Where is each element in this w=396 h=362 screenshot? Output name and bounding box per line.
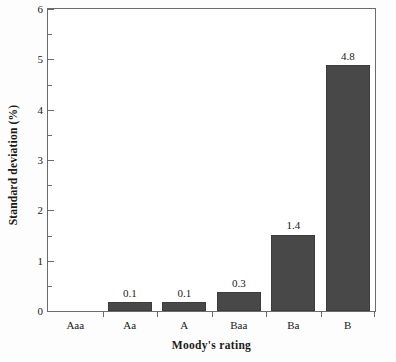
x-axis-tick xyxy=(321,311,322,317)
x-axis-tick-label-ba: Ba xyxy=(287,320,299,331)
y-axis-tick-label: 3 xyxy=(38,155,44,166)
bar-b[interactable] xyxy=(326,65,370,311)
y-axis-tick-major xyxy=(48,9,54,10)
y-axis-tick-minor xyxy=(48,236,52,237)
bar-value-label: 1.4 xyxy=(286,220,300,231)
plot-frame: 0123456Aaa0.1Aa0.1A0.3Baa1.4Ba4.8B xyxy=(47,8,376,312)
y-axis-tick-major xyxy=(48,59,54,60)
x-axis-tick-label-aa: Aa xyxy=(123,320,136,331)
x-axis-tick xyxy=(266,311,267,317)
bar-chart-figure: Standard deviation (%) 0123456Aaa0.1Aa0.… xyxy=(0,0,396,362)
y-axis-tick-major xyxy=(48,311,54,312)
bar-ba[interactable] xyxy=(271,235,315,312)
y-axis-title: Standard deviation (%) xyxy=(4,0,22,330)
y-axis-tick-minor xyxy=(48,185,52,186)
x-axis-tick xyxy=(157,311,158,317)
bar-value-label: 0.1 xyxy=(123,288,137,299)
y-axis-tick-major xyxy=(48,210,54,211)
y-axis-tick-major xyxy=(48,110,54,111)
x-axis-tick-label-b: B xyxy=(344,320,351,331)
bar-baa[interactable] xyxy=(217,292,261,311)
y-axis-tick-label: 6 xyxy=(38,4,44,15)
y-axis-tick-minor xyxy=(48,85,52,86)
x-axis-tick xyxy=(103,311,104,317)
y-axis-tick-minor xyxy=(48,135,52,136)
bar-value-label: 0.1 xyxy=(177,288,191,299)
plot-area: 0123456Aaa0.1Aa0.1A0.3Baa1.4Ba4.8B xyxy=(48,9,375,311)
x-axis-title: Moody's rating xyxy=(47,339,376,351)
bar-value-label: 4.8 xyxy=(341,51,355,62)
bar-aa[interactable] xyxy=(108,302,152,311)
y-axis-tick-label: 1 xyxy=(38,255,44,266)
x-axis-tick xyxy=(212,311,213,317)
y-axis-tick-minor xyxy=(48,286,52,287)
x-axis-tick-label-baa: Baa xyxy=(230,320,247,331)
bar-value-label: 0.3 xyxy=(232,278,246,289)
x-axis-tick-label-a: A xyxy=(180,320,188,331)
y-axis-tick-major xyxy=(48,261,54,262)
y-axis-tick-minor xyxy=(48,34,52,35)
y-axis-tick-label: 5 xyxy=(38,54,44,65)
bar-a[interactable] xyxy=(162,302,206,311)
y-axis-tick-label: 4 xyxy=(38,104,44,115)
y-axis-tick-major xyxy=(48,160,54,161)
y-axis-tick-label: 0 xyxy=(38,306,44,317)
x-axis-tick-label-aaa: Aaa xyxy=(66,320,84,331)
x-axis-tick xyxy=(374,311,375,317)
y-axis-tick-label: 2 xyxy=(38,205,44,216)
